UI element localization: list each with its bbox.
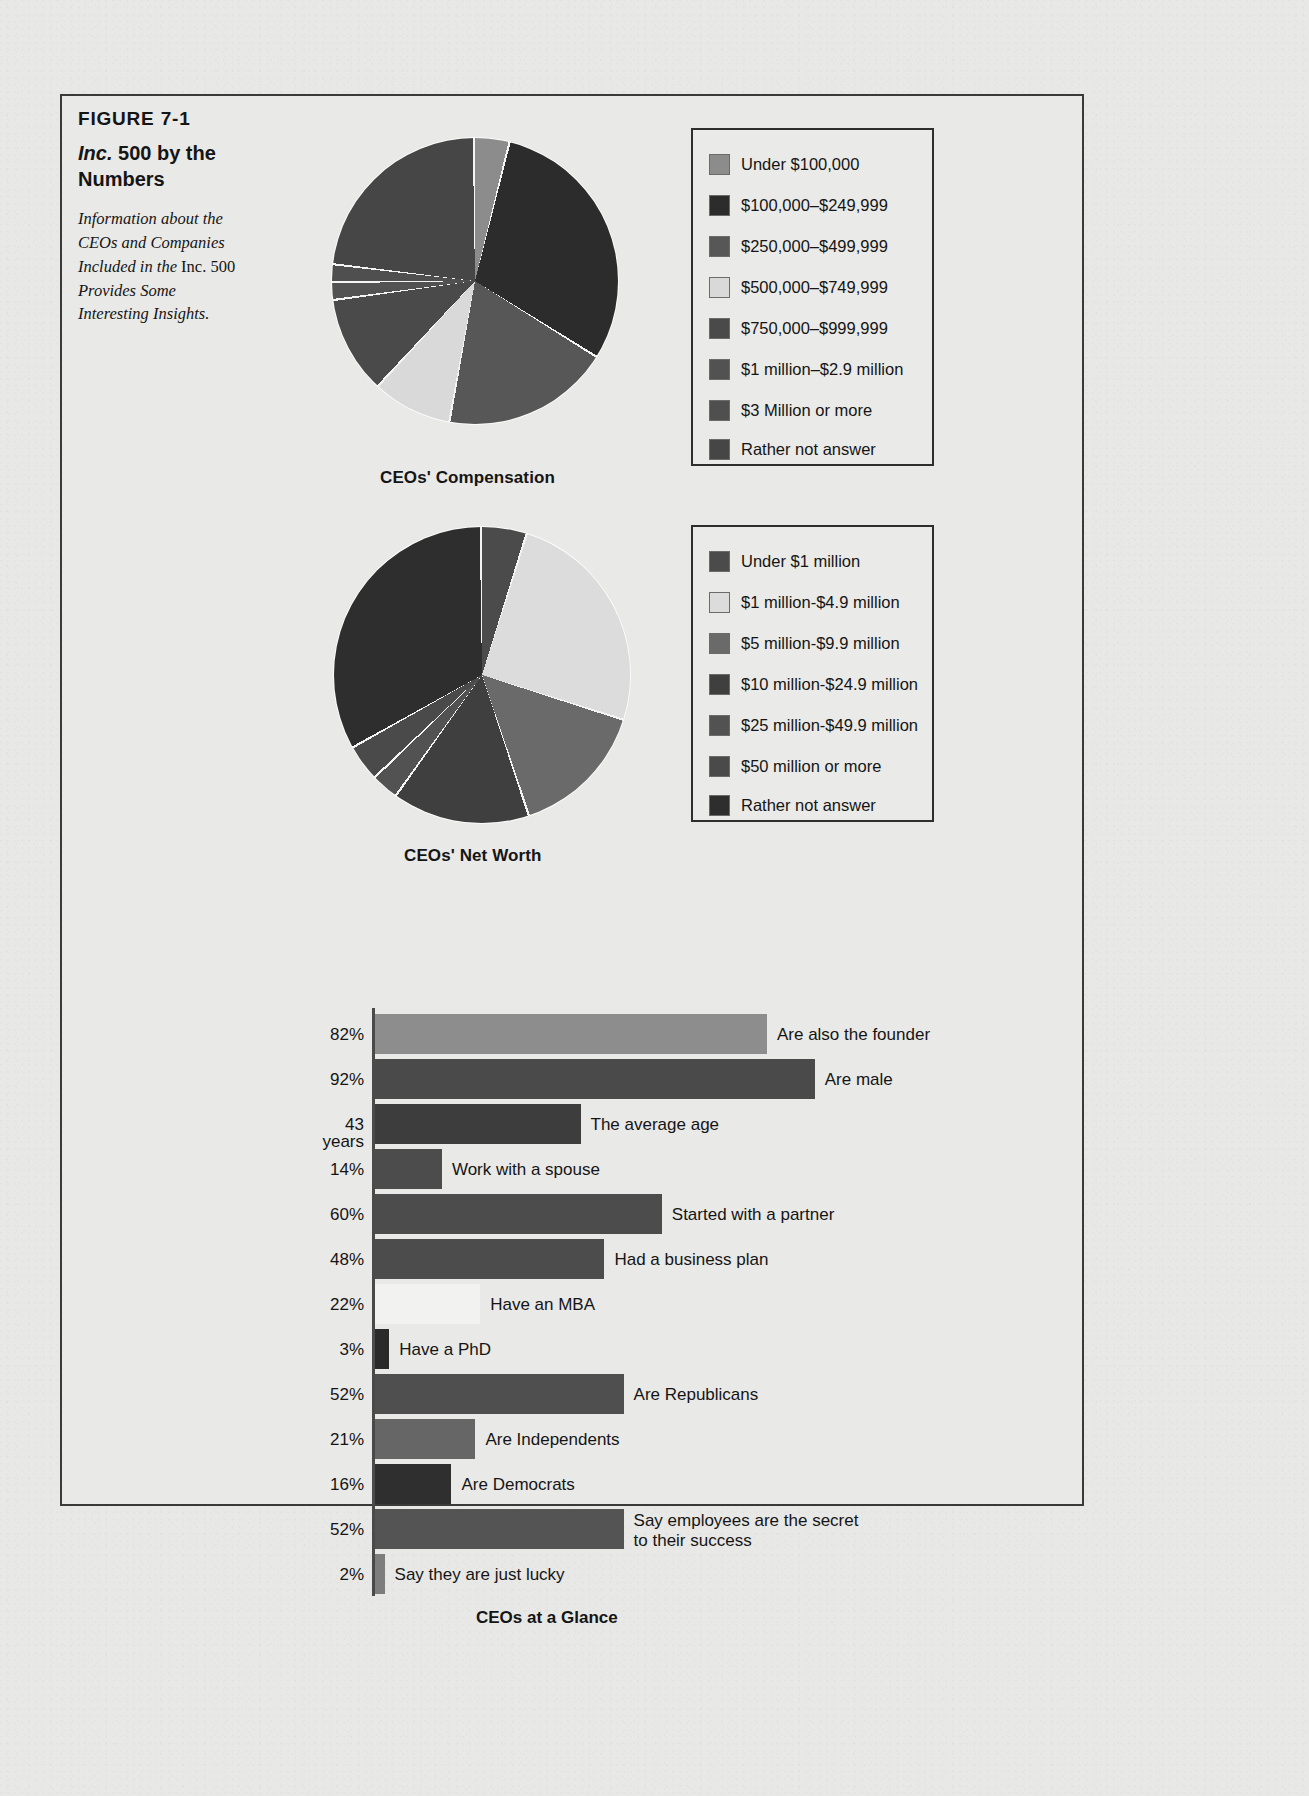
bar [375,1194,662,1234]
bar [375,1554,385,1594]
bar-row: 82%Are also the founder [300,1012,1020,1056]
bar-category-label: Say employees are the secret to their su… [634,1511,859,1552]
bar-value-label: 21% [300,1431,364,1448]
legend-item-label: $25 million-$49.9 million [741,717,918,734]
legend-swatch-icon [709,439,730,460]
ceos-networth-legend-item[interactable]: $5 million-$9.9 million [709,623,916,664]
ceos-networth-legend-item[interactable]: $50 million or more [709,746,916,787]
bar-category-label: Have a PhD [399,1340,491,1360]
ceos-networth-legend-item[interactable]: $10 million-$24.9 million [709,664,916,705]
bar-category-label: Say they are just lucky [395,1565,565,1585]
figure-number: FIGURE 7-1 [78,108,288,130]
ceos-compensation-legend-item[interactable]: $250,000–$499,999 [709,226,916,267]
legend-item-label: $250,000–$499,999 [741,238,888,255]
bar-row: 52%Say employees are the secret to their… [300,1507,1020,1555]
bar-category-label: Are Republicans [634,1385,759,1405]
ceos-compensation-legend: Under $100,000$100,000–$249,999$250,000–… [691,128,934,466]
bar-row: 48%Had a business plan [300,1237,1020,1281]
bar-value-label: 92% [300,1071,364,1088]
bar-row: 3%Have a PhD [300,1327,1020,1371]
figure-subtitle-line1: Information about the [78,209,223,228]
bar [375,1059,815,1099]
legend-swatch-icon [709,195,730,216]
legend-item-label: $1 million–$2.9 million [741,361,903,378]
bar [375,1284,480,1324]
bar-value-label: 82% [300,1026,364,1043]
bar-category-label: Work with a spouse [452,1160,600,1180]
ceos-networth-legend-item[interactable]: Rather not answer [709,787,916,823]
ceos-networth-legend-item[interactable]: Under $1 million [709,541,916,582]
legend-item-label: $500,000–$749,999 [741,279,888,296]
ceos-networth-legend-item[interactable]: $1 million-$4.9 million [709,582,916,623]
ceos-networth-legend: Under $1 million$1 million-$4.9 million$… [691,525,934,822]
figure-subtitle-line5: Interesting Insights. [78,304,209,323]
bar-row: 52%Are Republicans [300,1372,1020,1416]
legend-item-label: Rather not answer [741,441,876,458]
figure-title: Inc. 500 by the Numbers [78,140,288,193]
bar-row: 43 yearsThe average age [300,1102,1020,1146]
legend-swatch-icon [709,359,730,380]
bar-category-label: Had a business plan [614,1250,768,1270]
ceos-compensation-legend-item[interactable]: $750,000–$999,999 [709,308,916,349]
bar-row: 2%Say they are just lucky [300,1552,1020,1596]
legend-swatch-icon [709,633,730,654]
ceos-compensation-legend-item[interactable]: $500,000–$749,999 [709,267,916,308]
legend-swatch-icon [709,756,730,777]
bar-row: 92%Are male [300,1057,1020,1101]
legend-item-label: Rather not answer [741,797,876,814]
bar-category-label: The average age [591,1115,720,1135]
bar-value-label: 3% [300,1341,364,1358]
bar [375,1374,624,1414]
bar-value-label: 43 years [300,1116,364,1150]
bar [375,1419,475,1459]
legend-item-label: $3 Million or more [741,402,872,419]
figure-subtitle-line3b: Inc. 500 [181,257,235,276]
bar-category-label: Are Democrats [461,1475,574,1495]
bar-value-label: 2% [300,1566,364,1583]
figure-subtitle-line3a: Included in the [78,257,181,276]
legend-swatch-icon [709,236,730,257]
bar-category-label: Started with a partner [672,1205,835,1225]
bar-value-label: 60% [300,1206,364,1223]
legend-item-label: $10 million-$24.9 million [741,676,918,693]
bar-value-label: 14% [300,1161,364,1178]
legend-swatch-icon [709,154,730,175]
bar-row: 22%Have an MBA [300,1282,1020,1326]
legend-item-label: $50 million or more [741,758,881,775]
legend-item-label: $100,000–$249,999 [741,197,888,214]
bar [375,1464,451,1504]
ceos-compensation-legend-item[interactable]: $3 Million or more [709,390,916,431]
legend-item-label: Under $1 million [741,553,860,570]
legend-swatch-icon [709,551,730,572]
legend-swatch-icon [709,715,730,736]
bar [375,1014,767,1054]
bar-category-label: Are also the founder [777,1025,930,1045]
bar [375,1329,389,1369]
legend-item-label: Under $100,000 [741,156,859,173]
legend-item-label: $750,000–$999,999 [741,320,888,337]
figure-subtitle-line2: CEOs and Companies [78,233,225,252]
bar-category-label: Are male [825,1070,893,1090]
ceos-compensation-legend-item[interactable]: $100,000–$249,999 [709,185,916,226]
ceos-compensation-pie-title: CEOs' Compensation [380,468,555,488]
legend-swatch-icon [709,400,730,421]
ceos-compensation-legend-item[interactable]: $1 million–$2.9 million [709,349,916,390]
ceos-at-a-glance-title: CEOs at a Glance [476,1608,618,1628]
legend-swatch-icon [709,318,730,339]
ceos-networth-legend-item[interactable]: $25 million-$49.9 million [709,705,916,746]
bar [375,1239,604,1279]
bar-value-label: 52% [300,1521,364,1538]
legend-swatch-icon [709,795,730,816]
ceos-compensation-pie-wrap [332,138,618,424]
bar [375,1509,624,1549]
ceos-compensation-legend-item[interactable]: Under $100,000 [709,144,916,185]
bar-value-label: 52% [300,1386,364,1403]
bar [375,1149,442,1189]
bar-row: 16%Are Democrats [300,1462,1020,1506]
ceos-compensation-legend-item[interactable]: Rather not answer [709,431,916,467]
bar [375,1104,581,1144]
figure-subtitle-line4: Provides Some [78,281,176,300]
ceos-networth-pie-title: CEOs' Net Worth [404,846,541,866]
bar-value-label: 22% [300,1296,364,1313]
ceos-networth-pie-wrap [334,527,630,823]
